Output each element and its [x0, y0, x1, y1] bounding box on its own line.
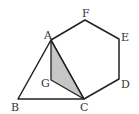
label-c: C: [80, 101, 88, 114]
label-e: E: [121, 31, 129, 44]
label-d: D: [121, 78, 130, 91]
label-g: G: [41, 77, 50, 90]
label-b: B: [11, 101, 19, 114]
label-f: F: [82, 7, 90, 20]
geometry-figure: A B C D E F G: [0, 0, 139, 114]
label-a: A: [43, 29, 53, 42]
